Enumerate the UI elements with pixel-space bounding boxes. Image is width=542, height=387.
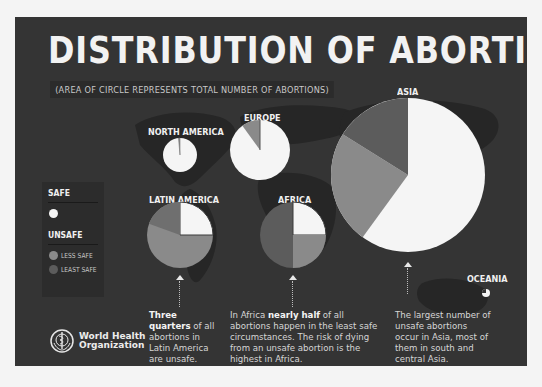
who-emblem-icon xyxy=(50,329,74,353)
note-latin-america: Three quarters of all abortions in Latin… xyxy=(149,310,217,365)
who-logo: World Health Organization xyxy=(50,329,145,353)
pie-north-america xyxy=(163,138,197,172)
safe-swatch-icon xyxy=(49,209,58,218)
who-wordmark: World Health Organization xyxy=(79,332,145,351)
pointer-dotted-line xyxy=(292,281,294,307)
pointer-arrow-icon xyxy=(176,275,184,280)
pie-europe xyxy=(230,120,290,180)
pie-oceania xyxy=(482,289,490,297)
legend-less-safe-label: LESS SAFE xyxy=(61,252,93,260)
who-line2: Organization xyxy=(79,341,145,351)
infographic-panel: DISTRIBUTION OF ABORTIONS (AREA OF CIRCL… xyxy=(15,17,527,366)
note-text: In Africa xyxy=(230,310,268,320)
pie-africa xyxy=(260,202,326,268)
legend-safe-header: SAFE xyxy=(48,188,70,198)
note-africa: In Africa nearly half of all abortions h… xyxy=(230,310,382,365)
pointer-arrow-icon xyxy=(289,275,297,280)
legend-divider xyxy=(48,202,98,203)
pie-latin-america xyxy=(147,202,213,268)
legend-unsafe-header: UNSAFE xyxy=(48,230,83,240)
least-safe-swatch-icon xyxy=(49,265,58,274)
less-safe-swatch-icon xyxy=(49,251,58,260)
pointer-dotted-line xyxy=(179,281,181,307)
legend-least-safe-label: LEAST SAFE xyxy=(61,266,97,274)
note-emphasis: nearly half xyxy=(268,310,320,320)
pointer-dotted-line xyxy=(407,268,409,294)
legend-divider xyxy=(48,244,98,245)
note-emphasis: Three quarters xyxy=(149,310,191,331)
legend: SAFE UNSAFE LESS SAFE LEAST SAFE xyxy=(42,182,104,297)
note-asia: The largest number of unsafe abortions o… xyxy=(395,310,493,365)
pointer-arrow-icon xyxy=(404,262,412,267)
pie-asia xyxy=(331,98,485,252)
